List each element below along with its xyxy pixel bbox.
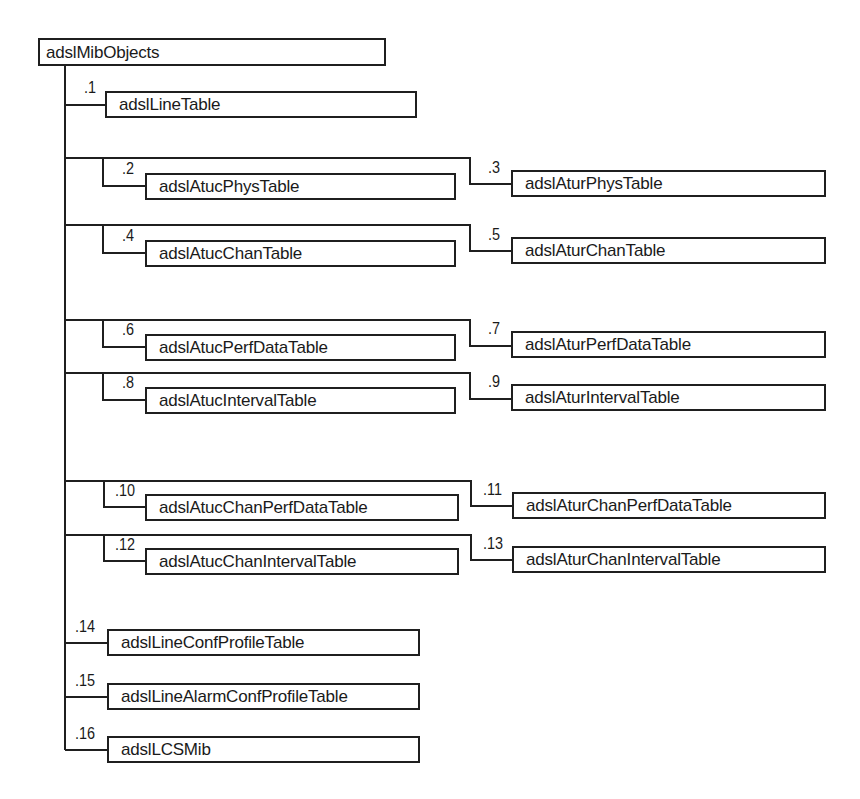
node-label: adslAturChanTable — [525, 242, 665, 259]
node-adsl-atur-chan-table: adslAturChanTable — [511, 237, 826, 264]
node-adsl-line-conf-profile-table: adslLineConfProfileTable — [107, 629, 420, 656]
oid-label: .15 — [75, 673, 95, 689]
oid-label: .11 — [483, 482, 502, 498]
mib-tree-diagram: adslMibObjects .1 adslLineTable .2 adslA… — [0, 0, 860, 799]
node-label: adslLineTable — [119, 96, 220, 113]
oid-label: .1 — [84, 80, 96, 96]
node-adsl-line-alarm-conf-profile-table: adslLineAlarmConfProfileTable — [107, 683, 420, 710]
node-label: adslAtucChanPerfDataTable — [159, 499, 368, 516]
oid-label: .2 — [122, 161, 134, 177]
node-label: adslLineConfProfileTable — [121, 634, 304, 651]
node-adsl-atuc-chan-perf-data-table: adslAtucChanPerfDataTable — [145, 494, 459, 521]
node-label: adslMibObjects — [46, 44, 159, 61]
node-adsl-atur-chan-perf-data-table: adslAturChanPerfDataTable — [512, 492, 826, 519]
node-adsl-atuc-chan-table: adslAtucChanTable — [145, 240, 456, 267]
node-adsl-line-table: adslLineTable — [105, 91, 417, 118]
oid-label: .7 — [488, 321, 500, 337]
node-label: adslAturIntervalTable — [525, 389, 680, 406]
node-label: adslAtucChanIntervalTable — [159, 553, 356, 570]
node-label: adslAtucChanTable — [159, 245, 302, 262]
oid-label: .4 — [122, 228, 134, 244]
oid-label: .13 — [483, 536, 503, 552]
node-adsl-atur-chan-interval-table: adslAturChanIntervalTable — [512, 546, 826, 573]
node-adsl-atuc-interval-table: adslAtucIntervalTable — [145, 387, 456, 414]
node-label: adslAturPhysTable — [525, 175, 662, 192]
oid-label: .3 — [488, 160, 500, 176]
oid-label: .14 — [75, 619, 95, 635]
oid-label: .10 — [115, 483, 135, 499]
node-label: adslAturChanIntervalTable — [526, 551, 720, 568]
node-adsl-atuc-chan-interval-table: adslAtucChanIntervalTable — [145, 548, 459, 575]
oid-label: .12 — [115, 537, 135, 553]
node-adsl-atur-perf-data-table: adslAturPerfDataTable — [511, 331, 826, 358]
oid-label: .6 — [122, 322, 134, 338]
oid-label: .5 — [488, 227, 500, 243]
oid-label: .8 — [122, 375, 134, 391]
node-adsl-atuc-perf-data-table: adslAtucPerfDataTable — [145, 334, 456, 361]
node-adsl-lcs-mib: adslLCSMib — [107, 736, 420, 763]
node-label: adslLineAlarmConfProfileTable — [121, 688, 348, 705]
node-label: adslAturPerfDataTable — [525, 336, 691, 353]
node-adsl-atur-phys-table: adslAturPhysTable — [511, 170, 826, 197]
oid-label: .9 — [488, 374, 500, 390]
oid-label: .16 — [75, 726, 95, 742]
node-root: adslMibObjects — [38, 38, 386, 66]
node-label: adslLCSMib — [121, 741, 211, 758]
node-adsl-atur-interval-table: adslAturIntervalTable — [511, 384, 826, 411]
node-label: adslAtucIntervalTable — [159, 392, 316, 409]
node-adsl-atuc-phys-table: adslAtucPhysTable — [145, 173, 456, 200]
node-label: adslAtucPhysTable — [159, 178, 299, 195]
node-label: adslAturChanPerfDataTable — [526, 497, 732, 514]
node-label: adslAtucPerfDataTable — [159, 339, 328, 356]
